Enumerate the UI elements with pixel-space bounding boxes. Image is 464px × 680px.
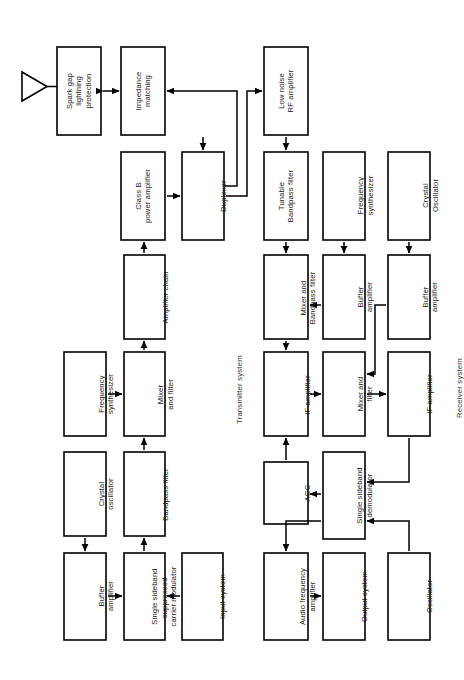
block-oscillator-rx [388, 553, 430, 640]
wire-bufferrx2-mixerrx [367, 305, 386, 374]
block-buffer-amplifier-rx-2 [388, 255, 430, 339]
block-mixer-and-filter-rx [323, 352, 365, 436]
block-frequency-synthesizer-tx [64, 352, 106, 436]
label-transmitter-system: Transmitter system [235, 355, 244, 424]
block-class-b-power-amplifier [121, 152, 165, 240]
block-bandpass-filter-tx [124, 452, 165, 536]
block-mixer-and-filter-tx [124, 352, 165, 436]
block-agc [264, 462, 308, 524]
block-if-amplifier-1 [264, 352, 308, 436]
wire-ifamp2-ssbdemod [367, 438, 409, 482]
block-if-amplifier-2 [388, 352, 430, 436]
block-single-sideband-suppressed-carrier-modulator [124, 553, 165, 640]
block-amplifier-chain [124, 255, 165, 339]
block-crystal-oscillator-tx [64, 452, 106, 536]
wire-ssbdemod-afamp [286, 521, 321, 551]
block-frequency-synthesizer-rx [323, 152, 365, 240]
block-duplexer [182, 152, 224, 240]
block-low-noise-rf-amplifier [264, 47, 308, 135]
block-output-system [323, 553, 365, 640]
block-buffer-amplifier-tx [64, 553, 106, 640]
label-receiver-system: Receiver system [455, 358, 464, 418]
block-spark-gap-lightning-protection [57, 47, 101, 135]
wire-duplexer-lnarf [226, 91, 262, 196]
block-mixer-and-bandpass-filter [264, 255, 308, 339]
block-single-sideband-demodulator [323, 452, 365, 539]
block-crystal-oscillator-rx [388, 152, 430, 240]
block-impedance-matching [121, 47, 165, 135]
block-tunable-bandpass-filter [264, 152, 308, 240]
wire-oscrx-ssbdemod [367, 521, 409, 551]
block-input-system [182, 553, 223, 640]
block-audio-frequency-amplifier [264, 553, 308, 640]
block-buffer-amplifier-rx-1 [323, 255, 365, 339]
antenna-icon [22, 72, 57, 101]
